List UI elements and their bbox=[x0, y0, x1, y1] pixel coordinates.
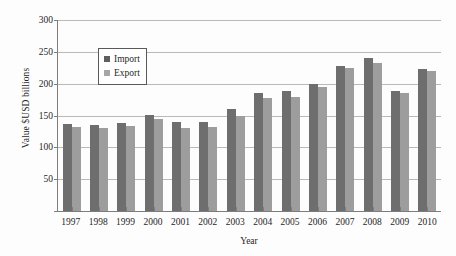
bar-export-2010 bbox=[427, 71, 436, 211]
x-tick-mark bbox=[291, 207, 292, 211]
bar-export-2005 bbox=[291, 97, 300, 211]
x-tick-label-1997: 1997 bbox=[57, 217, 84, 227]
x-tick-label-2010: 2010 bbox=[413, 217, 440, 227]
bar-export-2008 bbox=[373, 63, 382, 211]
bar-import-2007 bbox=[336, 66, 345, 211]
bar-import-1999 bbox=[117, 123, 126, 211]
bar-import-1997 bbox=[63, 124, 72, 211]
bar-group bbox=[304, 20, 331, 211]
y-tick-label: 250 bbox=[39, 47, 53, 57]
bar-import-2001 bbox=[172, 122, 181, 211]
bar-import-2006 bbox=[309, 84, 318, 211]
bar-import-2008 bbox=[364, 58, 373, 211]
bar-import-2002 bbox=[199, 122, 208, 211]
x-tick-label-2000: 2000 bbox=[139, 217, 166, 227]
y-tick-label: 100 bbox=[39, 142, 53, 152]
x-tick-label-2009: 2009 bbox=[386, 217, 413, 227]
x-tick-label-2003: 2003 bbox=[222, 217, 249, 227]
y-tick-label: 150 bbox=[39, 111, 53, 121]
bar-import-2003 bbox=[227, 109, 236, 211]
y-tick-label: 200 bbox=[39, 79, 53, 89]
bar-import-2004 bbox=[254, 93, 263, 211]
x-tick-label-2005: 2005 bbox=[276, 217, 303, 227]
export-swatch-icon bbox=[104, 70, 110, 76]
bar-export-2001 bbox=[181, 128, 190, 211]
x-tick-mark bbox=[236, 207, 237, 211]
x-tick-mark bbox=[400, 207, 401, 211]
bar-group bbox=[386, 20, 413, 211]
x-tick-mark bbox=[318, 207, 319, 211]
bar-group bbox=[277, 20, 304, 211]
bar-export-2004 bbox=[263, 98, 272, 211]
bar-export-2000 bbox=[154, 119, 163, 211]
bar-group bbox=[167, 20, 194, 211]
bar-export-2006 bbox=[318, 87, 327, 211]
bar-group bbox=[359, 20, 386, 211]
x-tick-mark bbox=[427, 207, 428, 211]
x-axis-tick-labels: 1997199819992000200120022003200420052006… bbox=[57, 217, 441, 227]
x-tick-mark bbox=[126, 207, 127, 211]
bar-export-2003 bbox=[236, 116, 245, 212]
bar-import-2000 bbox=[145, 115, 154, 211]
legend-label-import: Import bbox=[114, 54, 140, 64]
x-tick-mark bbox=[263, 207, 264, 211]
bar-group bbox=[222, 20, 249, 211]
y-axis-title: Value $USD billions bbox=[21, 8, 35, 208]
bar-group bbox=[195, 20, 222, 211]
y-tick-mark bbox=[54, 211, 58, 212]
bar-export-1999 bbox=[126, 126, 135, 211]
x-tick-label-1999: 1999 bbox=[112, 217, 139, 227]
x-tick-label-2008: 2008 bbox=[359, 217, 386, 227]
x-tick-label-2007: 2007 bbox=[331, 217, 358, 227]
x-tick-mark bbox=[72, 207, 73, 211]
x-tick-label-2001: 2001 bbox=[167, 217, 194, 227]
x-tick-mark bbox=[154, 207, 155, 211]
x-tick-label-1998: 1998 bbox=[84, 217, 111, 227]
bar-export-1998 bbox=[99, 128, 108, 211]
bar-group bbox=[250, 20, 277, 211]
bar-group bbox=[414, 20, 441, 211]
bar-import-2009 bbox=[391, 91, 400, 211]
legend-item-import: Import bbox=[104, 52, 140, 66]
bar-chart-figure: Value $USD billions 50100150200250300 19… bbox=[0, 0, 456, 256]
bar-group bbox=[332, 20, 359, 211]
chart-legend: Import Export bbox=[98, 48, 147, 85]
bar-import-1998 bbox=[90, 125, 99, 211]
bar-import-2010 bbox=[418, 69, 427, 211]
x-tick-mark bbox=[345, 207, 346, 211]
y-tick-label: 300 bbox=[39, 15, 53, 25]
legend-label-export: Export bbox=[114, 68, 140, 78]
x-tick-mark bbox=[181, 207, 182, 211]
y-tick-label: 50 bbox=[44, 174, 54, 184]
bar-import-2005 bbox=[282, 91, 291, 211]
x-tick-label-2006: 2006 bbox=[304, 217, 331, 227]
bar-group bbox=[58, 20, 85, 211]
legend-item-export: Export bbox=[104, 66, 140, 80]
bar-export-2007 bbox=[345, 68, 354, 211]
import-swatch-icon bbox=[104, 56, 110, 62]
bar-export-2002 bbox=[208, 127, 217, 211]
x-tick-mark bbox=[208, 207, 209, 211]
x-tick-label-2002: 2002 bbox=[194, 217, 221, 227]
bar-export-1997 bbox=[72, 127, 81, 211]
x-tick-mark bbox=[373, 207, 374, 211]
x-axis-title: Year bbox=[57, 236, 441, 246]
x-tick-label-2004: 2004 bbox=[249, 217, 276, 227]
x-tick-mark bbox=[99, 207, 100, 211]
bar-export-2009 bbox=[400, 93, 409, 211]
